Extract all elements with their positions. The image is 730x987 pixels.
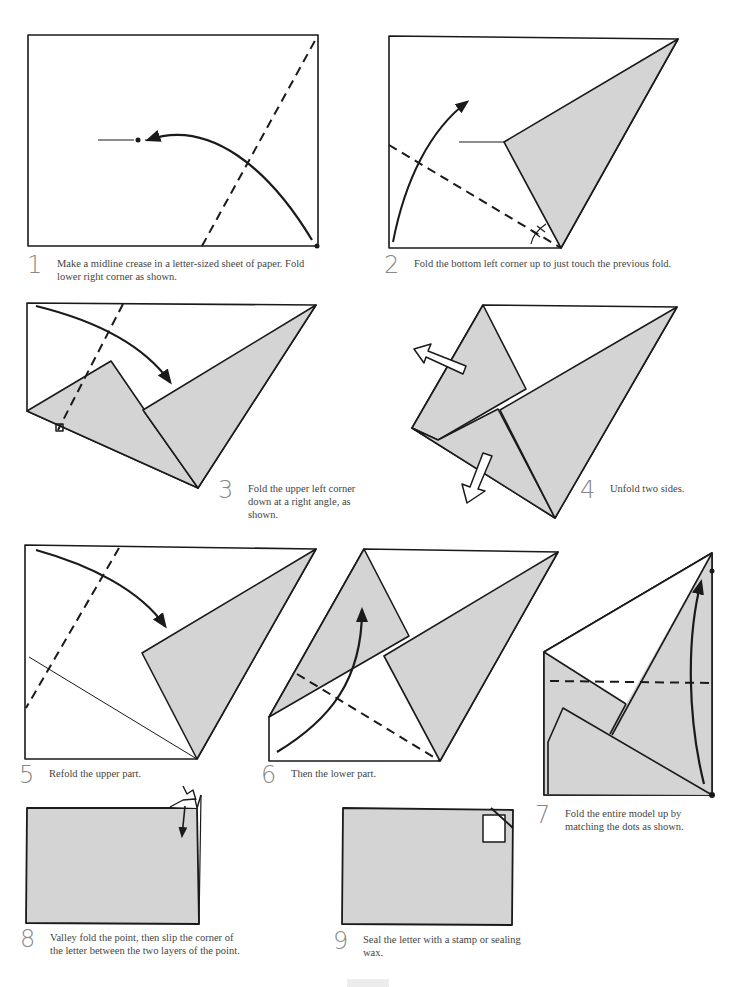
step-8-caption: 8 Valley fold the point, then slip the c… xyxy=(50,931,240,957)
page-footer-tab xyxy=(347,979,389,987)
step-number: 3 xyxy=(218,478,233,502)
step-3-diagram xyxy=(27,303,316,488)
step-text: Refold the upper part. xyxy=(49,767,249,780)
step-text: Make a midline crease in a letter-sized … xyxy=(57,257,327,283)
step-2-diagram xyxy=(389,36,678,248)
step-number: 9 xyxy=(333,929,348,953)
step-text: Unfold two sides. xyxy=(610,482,720,495)
step-number: 6 xyxy=(261,763,276,787)
step-7-caption: 7 Fold the entire model up by matching t… xyxy=(565,807,705,833)
step-5-caption: 5 Refold the upper part. xyxy=(49,767,249,780)
step-6-caption: 6 Then the lower part. xyxy=(291,767,491,780)
dot-icon xyxy=(709,792,715,798)
step-text: Fold the entire model up by matching the… xyxy=(565,807,705,833)
step-3-caption: 3 Fold the upper left corner down at a r… xyxy=(248,482,376,521)
step-number: 4 xyxy=(580,478,595,502)
step-number: 7 xyxy=(535,803,550,827)
step-number: 2 xyxy=(384,253,399,277)
step-2-caption: 2 Fold the bottom left corner up to just… xyxy=(414,257,699,270)
step-1-diagram xyxy=(28,35,320,249)
step-4-caption: 4 Unfold two sides. xyxy=(610,482,720,495)
step-number: 8 xyxy=(20,927,35,951)
step-text: Fold the upper left corner down at a rig… xyxy=(248,482,376,521)
step-9-caption: 9 Seal the letter with a stamp or sealin… xyxy=(363,933,543,959)
step-text: Valley fold the point, then slip the cor… xyxy=(50,931,240,957)
step-8-diagram xyxy=(26,786,201,924)
step-6-diagram xyxy=(269,549,558,761)
step-text: Seal the letter with a stamp or sealing … xyxy=(363,933,543,959)
step-7-diagram xyxy=(544,553,715,798)
dot-icon xyxy=(710,569,715,574)
step-number: 1 xyxy=(27,253,42,277)
step-text: Then the lower part. xyxy=(291,767,491,780)
step-text: Fold the bottom left corner up to just t… xyxy=(414,257,699,270)
dot-icon xyxy=(315,244,320,249)
step-1-caption: 1 Make a midline crease in a letter-size… xyxy=(57,257,327,283)
fold-arrow-icon xyxy=(183,786,196,800)
step-number: 5 xyxy=(19,763,34,787)
dot-icon xyxy=(136,138,141,143)
step-9-diagram xyxy=(342,808,513,925)
